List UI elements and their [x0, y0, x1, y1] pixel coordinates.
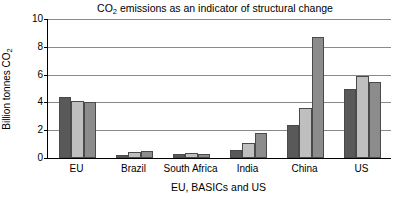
bar-group-us — [334, 19, 391, 158]
y-tick-mark-6 — [44, 75, 48, 76]
bar-us-series-3 — [369, 82, 382, 158]
x-tick-label-china: China — [276, 162, 333, 175]
bar-china-series-3 — [312, 37, 325, 158]
bars-layer — [49, 19, 391, 158]
bar-india-series-2 — [242, 143, 255, 158]
x-tick-label-eu: EU — [48, 162, 105, 175]
y-tick-mark-4 — [44, 102, 48, 103]
bar-china-series-2 — [299, 108, 312, 158]
bar-group-brazil — [106, 19, 163, 158]
bar-india-series-3 — [255, 133, 268, 158]
bar-group-china — [277, 19, 334, 158]
bar-eu-series-2 — [71, 101, 84, 158]
y-axis-title-main: Billion tonnes CO — [1, 52, 12, 129]
x-tick-label-india: India — [219, 162, 276, 175]
bar-us-series-2 — [356, 76, 369, 158]
bar-south-africa-series-3 — [198, 154, 211, 158]
y-tick-mark-10 — [44, 19, 48, 20]
bar-group-eu — [49, 19, 106, 158]
y-tick-label-2: 2 — [13, 125, 43, 135]
y-tick-label-6: 6 — [13, 70, 43, 80]
chart-title: CO2 emissions as an indicator of structu… — [40, 2, 390, 16]
x-tick-label-us: US — [333, 162, 390, 175]
bar-group-india — [220, 19, 277, 158]
bar-group-south-africa — [163, 19, 220, 158]
bar-brazil-series-1 — [116, 155, 129, 158]
bar-eu-series-3 — [84, 102, 97, 158]
y-tick-label-10: 10 — [13, 14, 43, 24]
x-axis-title: EU, BASICs and US — [47, 181, 390, 194]
y-tick-mark-2 — [44, 130, 48, 131]
y-axis-tick-labels: 0246810 — [11, 19, 43, 158]
x-tick-label-south-africa: South Africa — [162, 162, 219, 175]
plot-area — [47, 19, 391, 159]
bar-south-africa-series-2 — [185, 153, 198, 158]
x-axis-category-labels: EUBrazilSouth AfricaIndiaChinaUS — [48, 162, 390, 176]
y-tick-label-4: 4 — [13, 97, 43, 107]
bar-india-series-1 — [230, 150, 243, 158]
y-tick-mark-8 — [44, 47, 48, 48]
x-tick-label-brazil: Brazil — [105, 162, 162, 175]
bar-south-africa-series-1 — [173, 154, 186, 158]
chart-title-main: CO — [97, 2, 113, 14]
chart-title-subscript: 2 — [113, 7, 117, 16]
bar-eu-series-1 — [59, 97, 72, 158]
bar-brazil-series-2 — [128, 152, 141, 158]
chart-title-rest: emissions as an indicator of structural … — [117, 2, 333, 14]
bar-brazil-series-3 — [141, 151, 154, 158]
bar-china-series-1 — [287, 125, 300, 158]
bar-us-series-1 — [344, 89, 357, 159]
y-tick-mark-0 — [44, 158, 48, 159]
y-tick-label-8: 8 — [13, 42, 43, 52]
y-tick-label-0: 0 — [13, 153, 43, 163]
chart-container: CO2 emissions as an indicator of structu… — [0, 0, 405, 208]
